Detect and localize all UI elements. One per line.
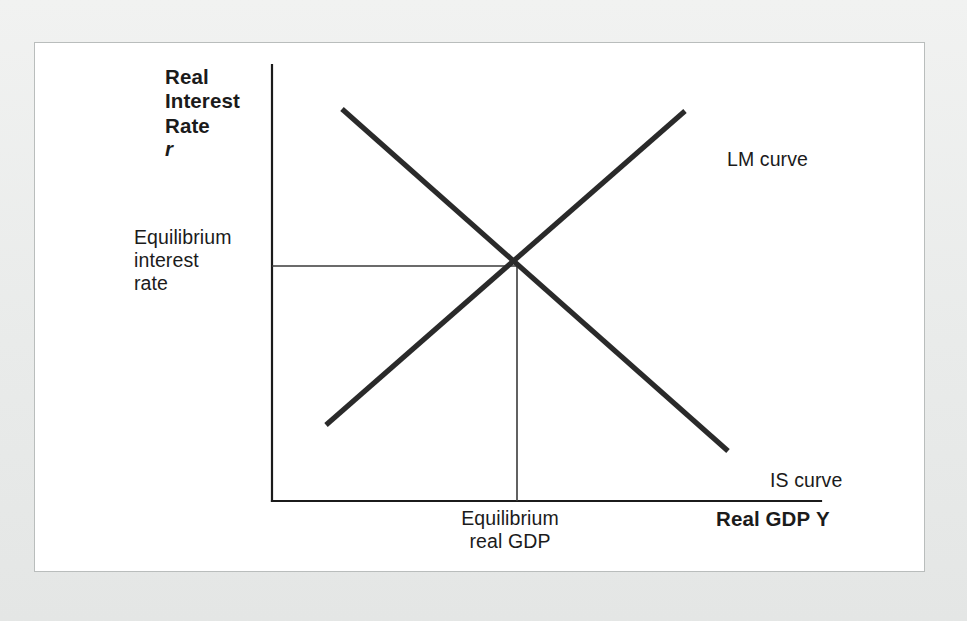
x-axis-title: Real GDP Y: [716, 507, 830, 531]
x-axis-symbol-text: Y: [816, 507, 830, 530]
lm-curve-label: LM curve: [727, 148, 808, 171]
y-axis-symbol: r: [165, 137, 173, 161]
figure-panel: Real Interest Rate r Equilibrium interes…: [34, 42, 925, 572]
plot-area: Real Interest Rate r Equilibrium interes…: [35, 43, 926, 573]
is-curve: [342, 109, 728, 451]
lm-curve: [326, 111, 685, 425]
y-axis-title: Real Interest Rate: [165, 65, 283, 138]
axes: [272, 65, 821, 501]
equilibrium-interest-rate-label: Equilibrium interest rate: [134, 226, 272, 296]
equilibrium-real-gdp-label: Equilibrium real GDP: [422, 507, 598, 553]
is-curve-label: IS curve: [770, 469, 842, 492]
x-axis-title-text: Real GDP: [716, 507, 810, 530]
equilibrium-guides: [272, 266, 517, 501]
figure-root: Real Interest Rate r Equilibrium interes…: [0, 0, 967, 621]
